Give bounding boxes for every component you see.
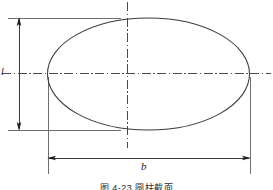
centre-lines bbox=[2, 2, 271, 148]
figure-caption: 图 4-23 圆柱截面 bbox=[0, 181, 273, 190]
height-dimension bbox=[17, 17, 22, 131]
width-dimension bbox=[47, 156, 251, 161]
engineering-drawing-canvas bbox=[0, 0, 273, 190]
ellipse-outline-group bbox=[48, 18, 250, 130]
width-extension-lines bbox=[48, 77, 250, 174]
ellipse-outline bbox=[48, 18, 250, 130]
width-dimension-label: b bbox=[141, 161, 147, 172]
figure-container: l b 图 4-23 圆柱截面 bbox=[0, 0, 273, 190]
height-dimension-label: l bbox=[1, 67, 4, 77]
height-extension-lines bbox=[8, 18, 121, 130]
